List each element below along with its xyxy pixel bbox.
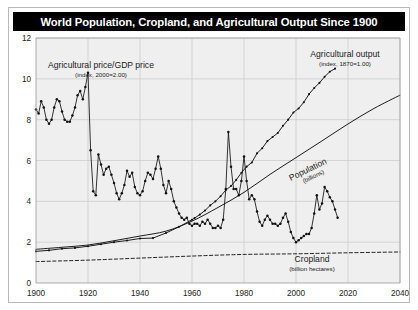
data-point [118, 198, 121, 201]
data-point [157, 155, 160, 158]
data-point [313, 212, 316, 215]
data-point [53, 106, 56, 109]
data-point [295, 241, 298, 244]
data-point [272, 136, 274, 138]
data-point [287, 221, 290, 224]
data-point [183, 218, 186, 221]
data-point [261, 225, 264, 228]
data-point [63, 118, 66, 121]
data-point [243, 155, 246, 158]
data-point [131, 172, 134, 175]
data-point [66, 120, 69, 123]
data-point [194, 217, 196, 219]
data-point [245, 180, 248, 183]
chart-figure: World Population, Cropland, and Agricult… [0, 0, 418, 310]
annotation-output: Agricultural output (index, 1870=1.00) [310, 49, 380, 67]
data-point [165, 232, 167, 234]
data-point [303, 235, 306, 238]
annotation-output-line1: Agricultural output [310, 49, 380, 59]
data-point [277, 225, 280, 228]
data-point [105, 167, 108, 170]
data-point [84, 86, 87, 89]
data-point [297, 239, 300, 242]
data-point [43, 106, 46, 109]
data-point [214, 200, 216, 202]
data-point [232, 188, 235, 191]
data-point [326, 190, 329, 193]
data-point [173, 200, 176, 203]
data-point [240, 180, 243, 183]
data-point [266, 214, 269, 217]
data-point [165, 192, 168, 195]
data-point [230, 185, 232, 187]
data-point [69, 120, 72, 123]
annotation-output-line2: (index, 1870=1.00) [319, 60, 371, 67]
data-point [225, 189, 227, 191]
data-point [209, 204, 211, 206]
data-point [162, 184, 165, 187]
x-axis-tick-label: 2000 [287, 289, 306, 298]
data-point [201, 221, 204, 224]
data-point [92, 190, 95, 193]
data-point [282, 216, 285, 219]
data-point [222, 218, 225, 221]
data-point [61, 110, 64, 113]
data-point [76, 94, 79, 97]
data-point [230, 165, 233, 168]
y-axis-tick-label: 8 [26, 116, 31, 125]
x-axis-tick-label: 1940 [131, 289, 150, 298]
data-point [217, 225, 220, 228]
data-point [178, 212, 181, 215]
y-axis-tick-label: 6 [26, 157, 31, 166]
data-point [248, 198, 251, 201]
data-point [308, 233, 311, 236]
data-point [186, 216, 189, 219]
data-point [256, 210, 259, 213]
data-point [89, 149, 92, 152]
data-point [56, 98, 59, 101]
data-point [269, 218, 272, 221]
data-point [261, 147, 263, 149]
data-point [175, 206, 178, 209]
y-axis-tick-label: 0 [26, 279, 31, 288]
data-point [336, 216, 339, 219]
annotation-cropland: Cropland (billion hectares) [289, 254, 334, 272]
data-point [37, 112, 40, 115]
data-point [318, 208, 321, 211]
data-point [152, 237, 154, 239]
y-axis-tick-label: 2 [26, 238, 31, 247]
data-point [126, 239, 128, 241]
data-point [264, 218, 267, 221]
data-point [121, 192, 124, 195]
data-point [199, 214, 201, 216]
data-point [48, 123, 51, 126]
data-point [110, 174, 113, 177]
data-point [227, 131, 230, 134]
data-point [167, 180, 170, 183]
data-point [298, 107, 300, 109]
data-point [324, 76, 326, 78]
data-point [50, 118, 53, 121]
data-point [300, 237, 303, 240]
data-point [149, 174, 152, 177]
data-point [292, 237, 295, 240]
data-point [71, 114, 74, 117]
data-point [141, 190, 144, 193]
data-point [316, 194, 319, 197]
data-point [79, 90, 82, 93]
data-point [313, 87, 315, 89]
x-axis-tick-label: 2040 [391, 289, 410, 298]
x-axis-tick-label: 1960 [183, 289, 202, 298]
data-point [196, 223, 199, 226]
data-point [115, 192, 118, 195]
data-point [82, 98, 85, 101]
data-point [139, 237, 141, 239]
data-point [292, 111, 294, 113]
data-point [61, 248, 63, 250]
annotation-price-line2: (index, 2000=2.00) [75, 71, 127, 78]
data-point [246, 166, 248, 168]
x-axis-tick-label: 1980 [235, 289, 254, 298]
data-point [235, 179, 237, 181]
plot-area-wrapper: 0246810121900192019401960198020002020204… [0, 0, 418, 310]
data-point [170, 188, 173, 191]
